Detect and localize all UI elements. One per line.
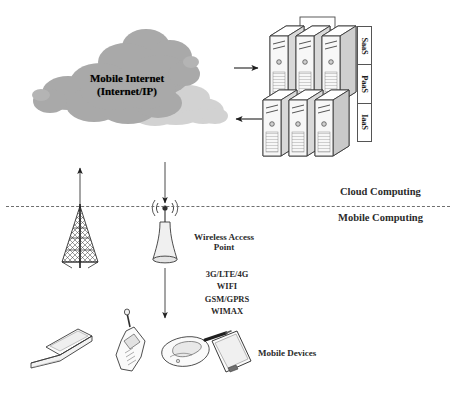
laptop-icon <box>31 329 92 368</box>
server-icon <box>263 90 297 156</box>
wireless-access-point-icon <box>152 200 178 263</box>
cloud-computing-tier-label: Cloud Computing <box>340 186 421 198</box>
server-icon <box>296 26 330 102</box>
flip-phone-icon <box>162 337 209 367</box>
service-model-iaas-label: IaaS <box>360 114 370 130</box>
cloud-label-line1: Mobile Internet <box>72 72 182 85</box>
diagram-canvas <box>0 0 456 401</box>
cell-tower-icon <box>62 204 98 268</box>
technology-item: 3G/LTE/4G <box>182 268 272 280</box>
server-rack-bracket <box>300 17 335 30</box>
server-icon <box>270 26 304 102</box>
technology-list: 3G/LTE/4G WIFI GSM/GPRS WIMAX <box>182 268 272 317</box>
mobile-cloud-computing-diagram: Mobile Internet (Internet/IP) SaaS PaaS … <box>0 0 456 401</box>
server-icon <box>322 26 356 102</box>
server-icon <box>315 90 349 156</box>
server-icon <box>289 90 323 156</box>
service-model-saas: SaaS <box>358 27 371 65</box>
service-model-paas-label: PaaS <box>360 75 370 93</box>
technology-item: GSM/GPRS <box>182 293 272 305</box>
cloud-server-rack <box>263 17 356 156</box>
service-model-paas: PaaS <box>358 65 371 103</box>
mobile-devices-label: Mobile Devices <box>258 348 316 358</box>
tablet-pda-icon <box>205 331 251 372</box>
mobile-phone-icon <box>116 309 145 371</box>
wireless-access-point-label-line2: Point <box>186 242 262 252</box>
wireless-access-point-label-line1: Wireless Access <box>186 232 262 242</box>
cloud-mobile-divider <box>6 206 450 207</box>
cloud-label-line2: (Internet/IP) <box>72 85 182 98</box>
technology-item: WIFI <box>182 280 272 292</box>
mobile-computing-tier-label: Mobile Computing <box>338 212 423 224</box>
cloud-label: Mobile Internet (Internet/IP) <box>72 72 182 97</box>
wireless-access-point-label: Wireless Access Point <box>186 232 262 253</box>
technology-item: WIMAX <box>182 305 272 317</box>
service-model-stack: SaaS PaaS IaaS <box>357 26 372 142</box>
service-model-saas-label: SaaS <box>360 37 370 54</box>
service-model-iaas: IaaS <box>358 104 371 141</box>
